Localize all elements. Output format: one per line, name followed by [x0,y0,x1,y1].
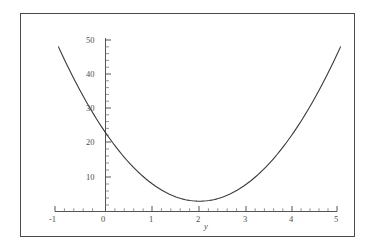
parabola-curve [59,47,341,201]
x-tick-label-4: 4 [289,215,293,224]
x-tick-label-3: 3 [243,215,247,224]
y-tick-label-20: 20 [86,138,95,147]
x-tick-label-2: 2 [196,215,200,224]
x-tick-label-minus1: -1 [49,215,56,224]
x-tick-label-0: 0 [101,215,105,224]
y-tick-label-10: 10 [86,173,95,182]
y-tick-label-30: 30 [86,104,95,113]
plot-figure: 50 40 30 20 10 -1 0 1 2 3 4 5 y [0,0,374,251]
plot-canvas [0,0,374,251]
y-tick-label-50: 50 [86,36,95,45]
y-tick-label-40: 40 [86,70,95,79]
y-axis-minor-ticks [106,47,110,205]
x-tick-label-5: 5 [334,215,338,224]
x-tick-label-1: 1 [149,215,153,224]
x-axis-major-ticks [55,206,337,212]
x-axis-label: y [204,222,208,231]
